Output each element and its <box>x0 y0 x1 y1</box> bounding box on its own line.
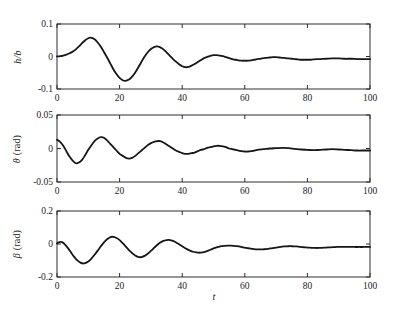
x-tick-label: 0 <box>55 281 60 291</box>
y-axis-label-beta-unit: (rad) <box>11 230 22 253</box>
x-tick-label: 0 <box>55 186 60 196</box>
y-axis-label-theta: θ (rad) <box>11 135 22 163</box>
x-axis-label: t <box>213 291 216 302</box>
response-curve <box>57 38 370 81</box>
y-tick-label: -0.05 <box>33 177 53 187</box>
response-curve <box>57 237 370 264</box>
x-tick-label: 100 <box>363 186 378 196</box>
x-tick-label: 80 <box>303 93 313 103</box>
x-tick-label: 60 <box>240 93 250 103</box>
x-tick-label: 40 <box>177 281 187 291</box>
subplot-h-over-b: 020406080100-0.100.1 <box>38 19 377 102</box>
axes-box <box>57 115 370 182</box>
x-tick-label: 40 <box>177 186 187 196</box>
x-tick-label: 60 <box>240 281 250 291</box>
y-tick-label: 0.1 <box>41 19 53 29</box>
x-tick-label: 100 <box>363 93 378 103</box>
x-tick-label: 80 <box>303 281 313 291</box>
y-axis-label-hb: h/b <box>12 50 23 63</box>
x-tick-label: 20 <box>115 93 125 103</box>
x-tick-label: 20 <box>115 281 125 291</box>
x-tick-label: 0 <box>55 93 60 103</box>
y-tick-label: 0.2 <box>41 206 53 216</box>
y-tick-label: 0 <box>48 239 53 249</box>
x-tick-label: 60 <box>240 186 250 196</box>
y-tick-label: -0.2 <box>38 272 53 282</box>
subplot-theta: 020406080100-0.0500.05 <box>33 110 377 195</box>
subplot-beta: 020406080100-0.200.2 <box>38 206 377 290</box>
y-tick-label: 0 <box>48 52 53 62</box>
x-tick-label: 100 <box>363 281 378 291</box>
y-tick-label: -0.1 <box>38 84 53 94</box>
response-curve <box>57 137 370 163</box>
x-tick-label: 40 <box>177 93 187 103</box>
y-axis-label-hb-var: h/b <box>12 50 23 63</box>
y-tick-label: 0 <box>48 144 53 154</box>
plots-canvas: 020406080100-0.100.1020406080100-0.0500.… <box>0 0 398 315</box>
axes-box <box>57 211 370 277</box>
x-tick-label: 80 <box>303 186 313 196</box>
y-axis-label-beta: β (rad) <box>11 230 22 258</box>
y-axis-label-theta-var: θ <box>11 158 22 163</box>
y-tick-label: 0.05 <box>36 110 53 120</box>
y-axis-label-beta-var: β <box>11 253 22 258</box>
flutter-response-figure: 020406080100-0.100.1020406080100-0.0500.… <box>0 0 398 315</box>
x-tick-label: 20 <box>115 186 125 196</box>
y-axis-label-theta-unit: (rad) <box>11 135 22 158</box>
axes-box <box>57 24 370 89</box>
